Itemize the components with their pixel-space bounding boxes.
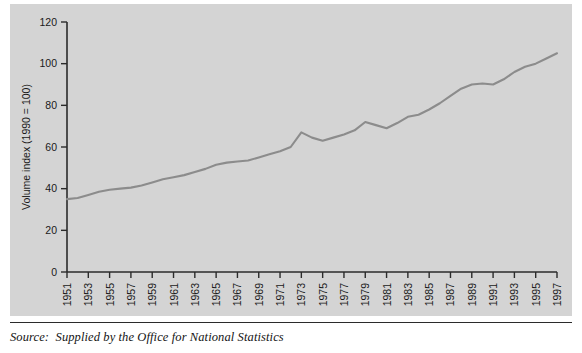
y-axis-ticks [61,22,67,272]
x-tick-label: 1991 [487,283,499,307]
y-tick-label: 0 [51,266,57,278]
x-tick-label: 1955 [104,283,116,307]
y-tick-label: 20 [45,224,57,236]
x-tick-label: 1981 [381,283,393,307]
y-tick-label: 40 [45,182,57,194]
x-tick-label: 1987 [444,283,456,307]
source-row: Source: Supplied by the Office for Natio… [0,322,582,353]
x-tick-label: 1983 [402,283,414,307]
x-tick-label: 1975 [317,283,329,307]
line-chart: 020406080100120 195119531955195719591961… [0,0,582,320]
y-tick-label: 100 [39,57,57,69]
x-tick-label: 1953 [82,283,94,307]
x-tick-label: 1961 [168,283,180,307]
figure-container: 020406080100120 195119531955195719591961… [0,0,582,353]
x-tick-label: 1985 [423,283,435,307]
x-tick-label: 1977 [338,283,350,307]
x-tick-label: 1951 [61,283,73,307]
x-axis-ticks [67,272,557,278]
x-tick-label: 1995 [530,283,542,307]
x-tick-label: 1967 [231,283,243,307]
x-tick-label: 1973 [295,283,307,307]
source-note: Source: Supplied by the Office for Natio… [10,330,284,345]
x-tick-label: 1969 [253,283,265,307]
x-tick-label: 1965 [210,283,222,307]
y-axis-title: Volume index (1990 = 100) [20,84,32,210]
y-tick-label: 80 [45,99,57,111]
x-axis-tick-labels: 1951195319551957195919611963196519671969… [61,283,563,307]
x-tick-label: 1959 [146,283,158,307]
chart-axes [67,22,557,272]
data-series-line [67,53,557,199]
x-tick-label: 1971 [274,283,286,307]
x-tick-label: 1993 [508,283,520,307]
y-tick-label: 60 [45,141,57,153]
x-tick-label: 1997 [551,283,563,307]
y-tick-label: 120 [39,16,57,28]
source-divider [10,322,572,323]
x-tick-label: 1963 [189,283,201,307]
x-tick-label: 1979 [359,283,371,307]
x-tick-label: 1989 [466,283,478,307]
y-axis-tick-labels: 020406080100120 [39,16,57,278]
x-tick-label: 1957 [125,283,137,307]
